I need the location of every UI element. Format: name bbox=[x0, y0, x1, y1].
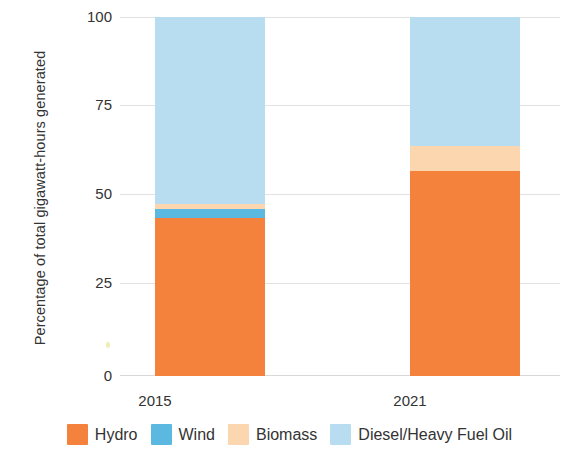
bar-segment bbox=[155, 17, 265, 204]
y-tick-0: 0 bbox=[66, 367, 112, 384]
y-axis-tick-labels: 100 75 50 25 0 bbox=[60, 17, 112, 376]
legend-label: Wind bbox=[179, 426, 215, 444]
legend-item[interactable]: Hydro bbox=[67, 424, 138, 445]
legend-item[interactable]: Wind bbox=[151, 424, 215, 445]
legend-item[interactable]: Biomass bbox=[228, 424, 317, 445]
bar-segment bbox=[155, 209, 265, 218]
y-axis-title: Percentage of total gigawatt-hours gener… bbox=[32, 0, 48, 398]
legend-label: Diesel/Heavy Fuel Oil bbox=[358, 426, 512, 444]
bar-segment bbox=[410, 146, 520, 171]
y-tick-100: 100 bbox=[66, 8, 112, 25]
stacked-bar-chart: Percentage of total gigawatt-hours gener… bbox=[0, 0, 579, 458]
chart-legend: HydroWindBiomassDiesel/Heavy Fuel Oil bbox=[0, 424, 579, 445]
bar-segment bbox=[155, 218, 265, 376]
stacked-bar bbox=[155, 17, 265, 376]
legend-label: Hydro bbox=[95, 426, 138, 444]
plot-area bbox=[120, 17, 560, 376]
bar-segment bbox=[155, 204, 265, 209]
scan-artifact-speck bbox=[106, 342, 110, 348]
y-tick-50: 50 bbox=[66, 185, 112, 202]
legend-label: Biomass bbox=[256, 426, 317, 444]
y-tick-75: 75 bbox=[66, 96, 112, 113]
legend-swatch-icon bbox=[151, 424, 172, 445]
x-tick-2015: 2015 bbox=[85, 392, 225, 409]
y-tick-25: 25 bbox=[66, 274, 112, 291]
legend-item[interactable]: Diesel/Heavy Fuel Oil bbox=[330, 424, 512, 445]
stacked-bar bbox=[410, 17, 520, 376]
legend-swatch-icon bbox=[330, 424, 351, 445]
bar-segment bbox=[410, 171, 520, 376]
x-tick-2021: 2021 bbox=[340, 392, 480, 409]
bar-segment bbox=[410, 17, 520, 146]
legend-swatch-icon bbox=[228, 424, 249, 445]
legend-swatch-icon bbox=[67, 424, 88, 445]
